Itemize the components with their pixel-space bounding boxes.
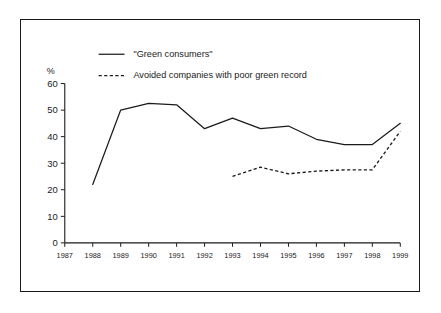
legend-label-green-consumers: "Green consumers" [133,49,212,59]
y-tick-label-50: 50 [47,105,58,116]
x-tick-label-1992: 1992 [196,251,212,260]
line-chart: "Green consumers" Avoided companies with… [21,20,419,291]
series-line-avoided-companies [233,131,401,176]
y-axis: 60 50 40 30 20 10 0 [47,78,64,248]
series-line-green-consumers [93,103,401,184]
x-tick-label-1994: 1994 [252,251,268,260]
chart-figure: "Green consumers" Avoided companies with… [20,19,420,292]
y-tick-label-60: 60 [47,78,58,89]
y-tick-label-0: 0 [53,237,58,248]
legend: "Green consumers" Avoided companies with… [99,49,307,80]
x-tick-label-1991: 1991 [168,251,184,260]
y-tick-label-20: 20 [47,184,58,195]
x-tick-label-1997: 1997 [336,251,352,260]
legend-label-avoided-companies: Avoided companies with poor green record [133,70,307,80]
x-tick-label-1989: 1989 [113,251,129,260]
y-tick-label-40: 40 [47,131,58,142]
x-tick-label-1998: 1998 [364,251,380,260]
x-axis: 1987 1988 1989 1990 1991 1992 1993 1994 … [57,243,409,260]
y-tick-label-30: 30 [47,158,58,169]
x-tick-label-1999: 1999 [392,251,408,260]
x-tick-label-1996: 1996 [308,251,324,260]
y-tick-label-10: 10 [47,211,58,222]
y-axis-unit-label: % [47,66,55,76]
x-tick-label-1987: 1987 [57,251,73,260]
x-tick-label-1993: 1993 [224,251,240,260]
x-tick-label-1988: 1988 [85,251,101,260]
x-tick-label-1995: 1995 [280,251,296,260]
x-tick-label-1990: 1990 [140,251,156,260]
